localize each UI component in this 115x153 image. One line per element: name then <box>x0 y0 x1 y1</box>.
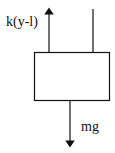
mass-block <box>35 53 110 101</box>
spring-force-label: k(y-l) <box>6 14 38 30</box>
gravity-force-label: mg <box>81 119 99 135</box>
